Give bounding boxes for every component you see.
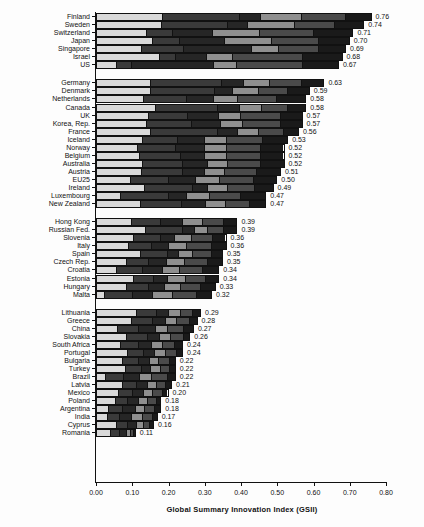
bar-segment: [148, 398, 157, 404]
bar-segment: [259, 88, 288, 94]
stacked-bar: [96, 266, 219, 274]
stacked-bar: [96, 95, 306, 103]
bar-segment: [97, 105, 156, 111]
bar-segment: [97, 145, 138, 151]
bar-segment: [177, 318, 190, 324]
stacked-bar: [96, 250, 223, 258]
x-axis-tick: [314, 482, 315, 486]
bar-segment: [97, 430, 111, 436]
bar-segment: [97, 22, 162, 28]
bar-segment: [314, 30, 353, 36]
bar-segment: [166, 318, 177, 324]
stacked-bar: [96, 61, 339, 69]
bar-row: Norway0.52: [96, 144, 386, 152]
bar-segment: [208, 161, 228, 167]
stacked-bar: [96, 405, 161, 413]
bar-segment: [303, 62, 338, 68]
bar-value-label: 0.67: [341, 60, 357, 69]
bar-segment: [139, 342, 152, 348]
x-axis-tick-label: 0.30: [198, 488, 212, 497]
stacked-bar: [96, 152, 285, 160]
bar-segment: [213, 30, 260, 36]
bar-segment: [97, 366, 126, 372]
bar-segment: [97, 318, 132, 324]
bar-segment: [161, 366, 170, 372]
bar-segment: [181, 310, 194, 316]
bar-segment: [97, 390, 119, 396]
bar-segment: [173, 292, 198, 298]
stacked-bar: [96, 341, 183, 349]
bar-segment: [97, 88, 151, 94]
bar-segment: [97, 14, 163, 20]
bar-row: UK0.57: [96, 112, 386, 120]
bar-segment: [262, 105, 288, 111]
x-axis-tick: [386, 482, 387, 486]
stacked-bar: [96, 325, 194, 333]
bar-segment: [270, 80, 303, 86]
bar-row: Hungary0.33: [96, 283, 386, 291]
bar-segment: [180, 267, 203, 273]
bar-segment: [97, 129, 151, 135]
bar-segment: [243, 121, 281, 127]
bar-segment: [153, 318, 166, 324]
bar-segment: [261, 14, 303, 20]
bar-segment: [171, 334, 184, 340]
bar-segment: [97, 185, 145, 191]
bar-segment: [143, 137, 177, 143]
bar-segment: [124, 374, 140, 380]
bar-segment: [150, 358, 159, 364]
bar-segment: [157, 398, 160, 404]
x-axis-tick: [350, 482, 351, 486]
bar-segment: [219, 113, 241, 119]
bar-value-label: 0.63: [326, 78, 342, 87]
stacked-bar: [96, 365, 176, 373]
bar-segment: [228, 161, 260, 167]
bar-value-label: 0.16: [156, 420, 172, 429]
stacked-bar: [96, 381, 172, 389]
bar-row: China0.27: [96, 325, 386, 333]
bar-segment: [154, 276, 169, 282]
bar-segment: [207, 54, 233, 60]
bar-segment: [97, 201, 141, 207]
stacked-bar: [96, 21, 364, 29]
x-axis-tick: [132, 482, 133, 486]
bar-segment: [133, 390, 144, 396]
bar-segment: [206, 201, 226, 207]
category-label: Malta: [73, 290, 90, 299]
bar-segment: [180, 38, 225, 44]
bar-row: New Zealand0.47: [96, 200, 386, 208]
bar-segment: [213, 235, 225, 241]
bar-segment: [214, 62, 236, 68]
bar-segment: [250, 201, 266, 207]
stacked-bar: [96, 389, 169, 397]
bar-row: Korea, Rep.0.57: [96, 120, 386, 128]
bar-segment: [97, 177, 131, 183]
bar-segment: [142, 169, 183, 175]
bar-segment: [133, 292, 153, 298]
bar-segment: [139, 326, 155, 332]
bar-row: France0.56: [96, 128, 386, 136]
bar-segment: [238, 129, 258, 135]
bar-row: Australia0.52: [96, 160, 386, 168]
bar-row: Romania0.11: [96, 429, 386, 437]
bar-segment: [261, 161, 284, 167]
stacked-bar: [96, 258, 223, 266]
bar-segment: [168, 326, 184, 332]
bar-segment: [148, 334, 161, 340]
stacked-bar: [96, 45, 346, 53]
bar-row: Malta0.32: [96, 291, 386, 299]
bar-segment: [168, 251, 179, 257]
bar-segment: [263, 137, 287, 143]
bar-segment: [244, 80, 270, 86]
bar-segment: [139, 398, 148, 404]
bar-segment: [218, 105, 240, 111]
stacked-bar: [96, 309, 201, 317]
bar-segment: [161, 235, 176, 241]
bar-segment: [156, 326, 169, 332]
bar-segment: [97, 80, 151, 86]
x-axis-tick-label: 0.40: [234, 488, 248, 497]
bar-segment: [142, 46, 184, 52]
bar-segment: [176, 54, 207, 60]
bar-row: Czech Rep.0.35: [96, 258, 386, 266]
bar-segment: [168, 276, 186, 282]
